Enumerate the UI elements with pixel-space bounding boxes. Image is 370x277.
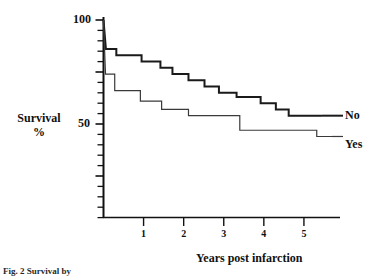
y-axis-label-unit: % <box>2 126 76 140</box>
axes <box>103 17 340 218</box>
x-tick-label-4: 4 <box>257 228 271 239</box>
x-tick-label-2: 2 <box>177 228 191 239</box>
y-axis-ticks <box>96 20 104 218</box>
series-line-no <box>104 20 322 116</box>
figure-caption: Fig. 2 Survival by <box>3 266 203 276</box>
survival-figure: Survival % 100 50 12345 Years post infar… <box>0 0 370 277</box>
series-lines <box>104 20 332 136</box>
series-line-yes <box>104 20 332 136</box>
x-tick-label-1: 1 <box>137 228 151 239</box>
x-axis-label: Years post infarction <box>196 251 302 266</box>
y-axis-label-main: Survival <box>2 112 76 126</box>
y-tick-label-50: 50 <box>78 116 90 131</box>
legend-label-no: No <box>345 108 360 123</box>
x-axis-ticks <box>144 217 304 226</box>
legend-label-yes: Yes <box>345 137 362 152</box>
y-axis-label: Survival % <box>2 112 76 140</box>
y-tick-label-100: 100 <box>73 12 91 27</box>
x-tick-label-5: 5 <box>297 228 311 239</box>
x-tick-label-3: 3 <box>217 228 231 239</box>
legend-connector-lines <box>322 116 343 137</box>
